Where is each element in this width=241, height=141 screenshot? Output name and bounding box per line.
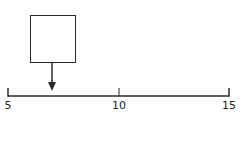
number-line <box>0 0 241 141</box>
arrow-down-icon <box>48 62 56 91</box>
number-line-diagram: 5 10 15 <box>0 0 241 141</box>
tick-label-15: 15 <box>222 100 236 112</box>
tick-label-5: 5 <box>5 100 12 112</box>
tick-label-10: 10 <box>112 100 126 112</box>
